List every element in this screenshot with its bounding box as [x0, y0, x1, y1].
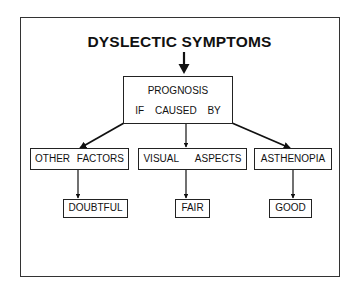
arrow-down-icon [179, 64, 190, 74]
prognosis-condition: IF CAUSED BY [124, 105, 232, 116]
prognosis-label: PROGNOSIS [124, 85, 232, 96]
prognosis-box: PROGNOSIS IF CAUSED BY [123, 76, 233, 124]
outcome-box-doubtful: DOUBTFUL [63, 199, 128, 218]
cause-box-other-factors: OTHER FACTORS [30, 148, 129, 170]
cause-box-visual-aspects: VISUAL ASPECTS [138, 148, 247, 170]
title-arrow [179, 52, 190, 74]
outcome-box-fair: FAIR [175, 199, 210, 218]
outcome-box-good: GOOD [269, 199, 312, 218]
link-prognosis-asthenopia [232, 123, 290, 148]
connector-lines [0, 0, 359, 289]
link-prognosis-other-factors [80, 123, 124, 148]
cause-box-asthenopia: ASTHENOPIA [254, 148, 332, 170]
